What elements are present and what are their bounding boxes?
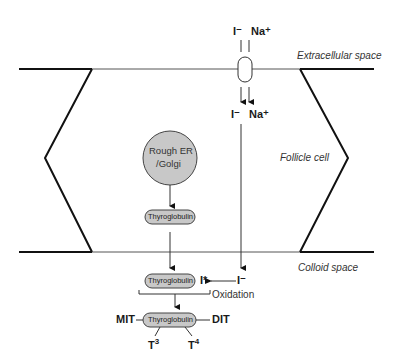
t3-superscript: 3 <box>155 337 159 346</box>
t3-label: T3 <box>148 337 159 351</box>
nis-transporter <box>238 57 252 82</box>
thyroglobulin-final-label: Thyroglobulin <box>148 315 193 324</box>
t4-base: T <box>188 339 195 351</box>
oxidation-label: Oxidation <box>212 289 254 300</box>
t3-base: T <box>148 339 155 351</box>
thyroid-hormone-synthesis-diagram: Extracellular space Follicle cell Colloi… <box>0 0 401 364</box>
t4-superscript: 4 <box>195 337 199 346</box>
golgi-label: /Golgi <box>156 158 181 169</box>
extracellular-space-label: Extracellular space <box>297 50 381 61</box>
sodium-extracellular: Na⁺ <box>251 25 271 38</box>
iodide-colloid: I⁻ <box>237 274 246 287</box>
thyroglobulin-cell-label: Thyroglobulin <box>148 212 193 221</box>
thyroglobulin-colloid-label: Thyroglobulin <box>148 276 193 285</box>
mit-label: MIT <box>116 313 135 325</box>
sodium-intracellular: Na⁺ <box>249 108 269 121</box>
iodide-extracellular: I⁻ <box>233 25 242 38</box>
iodide-intracellular: I⁻ <box>231 108 240 121</box>
t4-label: T4 <box>188 337 199 351</box>
rough-er-label: Rough ER <box>149 145 193 156</box>
colloid-space-label: Colloid space <box>298 262 358 273</box>
dit-label: DIT <box>212 313 230 325</box>
follicle-cell-label: Follicle cell <box>280 152 329 163</box>
oxidized-iodine: I* <box>200 274 207 286</box>
